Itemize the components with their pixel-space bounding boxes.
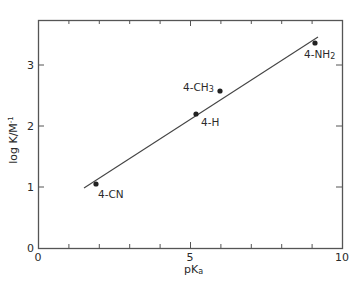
x-tick-10: 10 — [335, 251, 349, 264]
data-point-4-nh2 — [312, 40, 317, 45]
chart: 0 1 2 3 0 5 10 pKa log K/M-1 4-CN 4-H 4-… — [0, 0, 358, 288]
label-4-h: 4-H — [201, 116, 219, 128]
x-axis-label: pKa — [184, 263, 203, 276]
label-4-nh2: 4-NH2 — [304, 48, 335, 61]
x-ticks — [69, 20, 312, 248]
plot-frame — [39, 21, 343, 249]
label-4-cn: 4-CN — [98, 188, 124, 200]
y-tick-3: 3 — [27, 59, 34, 72]
y-tick-2: 2 — [27, 120, 34, 133]
x-tick-0: 0 — [35, 251, 42, 264]
data-point-4-ch3 — [217, 88, 222, 93]
label-4-ch3: 4-CH3 — [183, 81, 214, 94]
y-tick-0: 0 — [27, 242, 34, 255]
y-axis-label: log K/M-1 — [7, 116, 20, 164]
regression-line — [84, 37, 318, 188]
data-point-4-cn — [93, 181, 98, 186]
y-tick-1: 1 — [27, 181, 34, 194]
data-point-4-h — [193, 111, 198, 116]
